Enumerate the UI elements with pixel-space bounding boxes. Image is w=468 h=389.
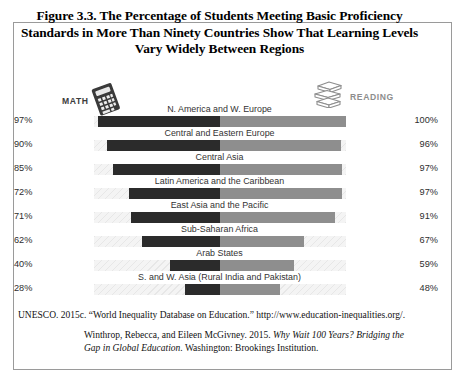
bar-math — [98, 116, 220, 127]
bar-reading — [220, 116, 346, 127]
citation-source: UNESCO. 2015c. “World Inequality Databas… — [0, 303, 439, 322]
citation-reference: Winthrop, Rebecca, and Eileen McGivney. … — [0, 322, 439, 355]
bar-math — [113, 164, 220, 175]
math-value-label: 40% — [14, 259, 58, 269]
math-value-label: 62% — [14, 235, 58, 245]
legend-reading-label: READING — [350, 92, 394, 102]
region-label: Arab States — [0, 248, 439, 258]
bar-track — [94, 260, 346, 271]
chart-row: Central Asia85%97% — [0, 153, 439, 177]
bar-track — [94, 236, 346, 247]
bar-math — [129, 188, 220, 199]
chart-row: Sub-Saharan Africa62%67% — [0, 225, 439, 249]
region-label: Central and Eastern Europe — [0, 128, 439, 138]
math-value-label: 72% — [14, 187, 58, 197]
reading-value-label: 59% — [394, 259, 438, 269]
citations: UNESCO. 2015c. “World Inequality Databas… — [0, 303, 439, 355]
bar-reading — [220, 236, 304, 247]
bar-track — [94, 140, 346, 151]
reading-value-label: 97% — [394, 187, 438, 197]
bar-math — [185, 284, 220, 295]
chart-row: East Asia and the Pacific71%91% — [0, 201, 439, 225]
chart-row: Arab States40%59% — [0, 249, 439, 273]
math-value-label: 71% — [14, 211, 58, 221]
bar-math — [107, 140, 220, 151]
bar-reading — [220, 188, 342, 199]
bar-track — [94, 212, 346, 223]
chart-row: N. America and W. Europe97%100% — [0, 105, 439, 129]
math-value-label: 90% — [14, 139, 58, 149]
bar-track — [94, 116, 346, 127]
chart-row: Central and Eastern Europe90%96% — [0, 129, 439, 153]
chart-row: Latin America and the Caribbean72%97% — [0, 177, 439, 201]
bar-reading — [220, 164, 342, 175]
figure-title: Figure 3.3. The Percentage of Students M… — [14, 8, 425, 58]
bar-reading — [220, 260, 294, 271]
math-value-label: 85% — [14, 163, 58, 173]
bar-math — [142, 236, 220, 247]
bar-track — [94, 188, 346, 199]
bar-track — [94, 284, 346, 295]
citation-reference-tail: . Washington: Brookings Institution. — [180, 343, 318, 353]
bar-reading — [220, 284, 280, 295]
math-value-label: 97% — [14, 115, 58, 125]
citation-reference-lead: Winthrop, Rebecca, and Eileen McGivney. … — [84, 330, 273, 340]
region-label: Latin America and the Caribbean — [0, 176, 439, 186]
chart-rows: N. America and W. Europe97%100%Central a… — [0, 105, 439, 297]
reading-value-label: 100% — [394, 115, 438, 125]
reading-value-label: 48% — [394, 283, 438, 293]
bar-math — [170, 260, 220, 271]
math-value-label: 28% — [14, 283, 58, 293]
region-label: Central Asia — [0, 152, 439, 162]
reading-value-label: 97% — [394, 163, 438, 173]
reading-value-label: 91% — [394, 211, 438, 221]
bar-reading — [220, 140, 341, 151]
region-label: Sub-Saharan Africa — [0, 224, 439, 234]
bar-math — [131, 212, 220, 223]
reading-value-label: 67% — [394, 235, 438, 245]
region-label: East Asia and the Pacific — [0, 200, 439, 210]
bar-track — [94, 164, 346, 175]
chart-row: S. and W. Asia (Rural India and Pakistan… — [0, 273, 439, 297]
bar-reading — [220, 212, 335, 223]
reading-value-label: 96% — [394, 139, 438, 149]
region-label: S. and W. Asia (Rural India and Pakistan… — [0, 272, 439, 282]
region-label: N. America and W. Europe — [0, 104, 439, 114]
